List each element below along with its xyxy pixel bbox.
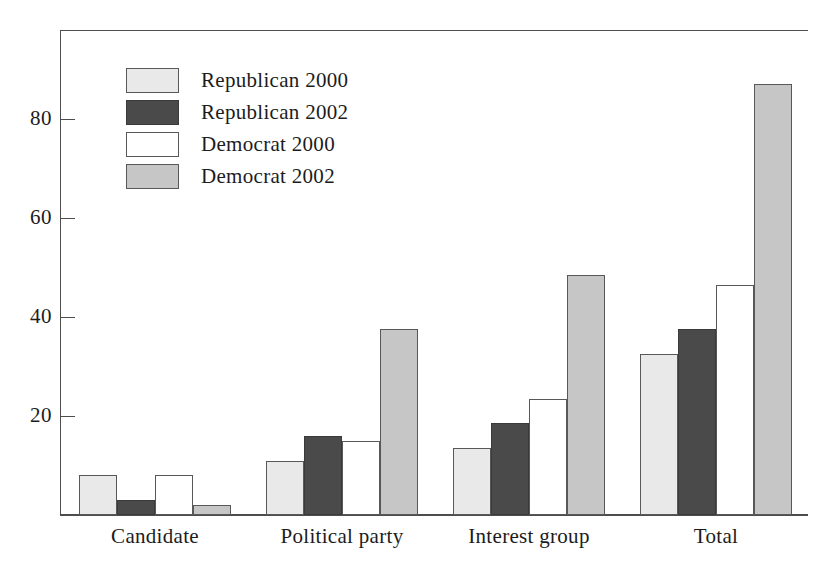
y-axis-tick-label: 40 [6,306,52,327]
y-axis-tick-label: 20 [6,405,52,426]
bar [754,84,792,515]
y-axis-tick-label: 80 [6,108,52,129]
bar [529,399,567,515]
bar [117,500,155,515]
bar [453,448,491,515]
legend-item: Democrat 2000 [126,128,348,160]
bar [155,475,193,515]
legend-swatch [126,100,179,125]
bar [266,461,304,515]
bar-chart: 20406080 CandidatePolitical partyInteres… [0,0,815,578]
bar [716,285,754,515]
bar [380,329,418,515]
bar [304,436,342,515]
legend-item: Democrat 2002 [126,160,348,192]
legend-item: Republican 2002 [126,96,348,128]
legend-label: Democrat 2002 [201,166,335,187]
bar [193,505,231,515]
legend-swatch [126,132,179,157]
x-axis-category-label: Total [580,524,815,548]
y-axis-tick-label: 60 [6,207,52,228]
chart-legend: Republican 2000Republican 2002Democrat 2… [126,64,348,192]
legend-label: Democrat 2000 [201,134,335,155]
bar-group [640,30,792,515]
legend-label: Republican 2000 [201,70,348,91]
bar [79,475,117,515]
bar [567,275,605,515]
bar [491,423,529,515]
legend-swatch [126,164,179,189]
bar [678,329,716,515]
bar [342,441,380,515]
legend-label: Republican 2002 [201,102,348,123]
bar-group [453,30,605,515]
bar [640,354,678,515]
legend-item: Republican 2000 [126,64,348,96]
legend-swatch [126,68,179,93]
